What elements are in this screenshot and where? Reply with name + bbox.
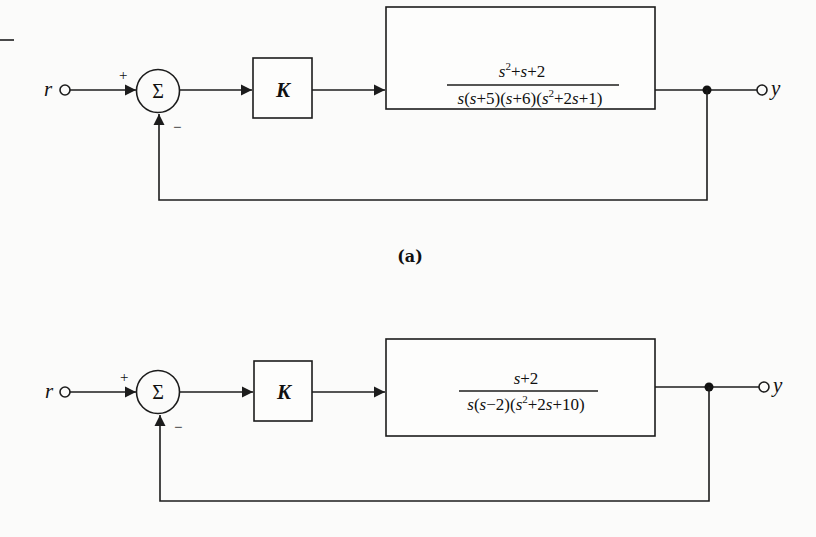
plant-numerator: s+2: [514, 369, 539, 388]
output-terminal-icon: [759, 382, 769, 392]
block-diagram-figure: r + Σ − K s2+s+2 s(s+5)(s+6)(s2+2s+1) y …: [0, 0, 816, 537]
plant-denominator: s(s+5)(s+6)(s2+2s+1): [458, 87, 603, 108]
output-label-y: y: [771, 373, 783, 397]
sigma-symbol: Σ: [152, 381, 164, 403]
gain-label: K: [275, 78, 292, 102]
input-terminal-icon: [60, 387, 70, 397]
input-label-r: r: [44, 77, 53, 101]
sigma-symbol: Σ: [152, 80, 164, 102]
input-terminal-icon: [60, 85, 70, 95]
output-label-y: y: [769, 76, 781, 100]
caption-a: (a): [397, 247, 423, 266]
plus-sign: +: [119, 67, 127, 83]
output-terminal-icon: [757, 85, 767, 95]
plus-sign: +: [120, 369, 128, 385]
diagram-a: r + Σ − K s2+s+2 s(s+5)(s+6)(s2+2s+1) y: [44, 7, 781, 200]
diagram-b: r + Σ − K s+2 s(s−2)(s2+2s+10) y: [45, 339, 783, 501]
minus-sign: −: [174, 419, 182, 435]
gain-label: K: [276, 380, 293, 404]
input-label-r: r: [45, 379, 54, 403]
minus-sign: −: [173, 119, 181, 135]
